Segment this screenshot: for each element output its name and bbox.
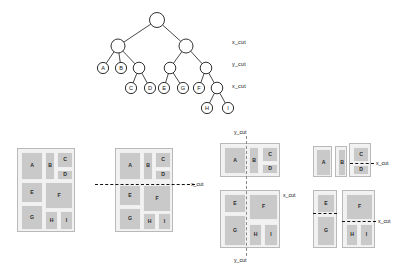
tree-internal-node[interactable] xyxy=(133,62,145,74)
floorplan-split-halves-y-cut-x-cut-label: x_cut xyxy=(283,192,295,198)
floorplan-block-i[interactable]: I xyxy=(360,224,373,246)
floorplan-quadrants-x-cut-group-EG-x-cut-line xyxy=(313,213,337,214)
floorplan-quadrants-x-cut-group-A-board: A xyxy=(313,146,332,177)
floorplan-block-d[interactable]: D xyxy=(57,170,73,180)
block-label: F xyxy=(57,193,60,198)
tree-node-label: C xyxy=(129,85,133,91)
floorplan-block-g[interactable]: G xyxy=(224,215,246,246)
floorplan-block-f[interactable]: F xyxy=(143,185,171,212)
block-label: H xyxy=(148,219,152,224)
floorplan-block-c[interactable]: C xyxy=(155,152,171,168)
floorplan-block-e[interactable]: E xyxy=(119,185,141,206)
tree-edge xyxy=(119,53,120,63)
tree-edge xyxy=(166,74,169,83)
tree-edge xyxy=(173,73,180,83)
tree-node-label: E xyxy=(162,85,166,91)
floorplan-split-halves-y-cut-top-board: ABCD xyxy=(220,143,280,177)
block-label: G xyxy=(30,215,34,220)
tree-internal-node[interactable] xyxy=(150,13,165,28)
tree-leaf-node-f[interactable]: F xyxy=(193,82,204,93)
tree-node-circle xyxy=(211,82,223,94)
floorplan-block-e[interactable]: E xyxy=(21,182,43,203)
floorplan-block-d[interactable]: D xyxy=(155,170,171,180)
floorplan-block-c[interactable]: C xyxy=(57,152,73,168)
tree-node-label: G xyxy=(181,85,185,91)
floorplan-block-a[interactable]: A xyxy=(21,152,43,180)
floorplan-first-x-cut-board: ABCDEFGHI xyxy=(115,148,173,232)
block-label: C xyxy=(359,152,363,157)
tree-edge xyxy=(123,51,135,64)
tree-node-label: H xyxy=(205,105,209,111)
tree-leaf-node-h[interactable]: H xyxy=(201,102,212,113)
floorplan-block-e[interactable]: E xyxy=(224,194,246,213)
floorplan-block-f[interactable]: F xyxy=(249,194,278,220)
tree-level-label-x-cut-1: x_cut xyxy=(232,39,246,45)
floorplan-block-a[interactable]: A xyxy=(224,147,246,174)
block-label: I xyxy=(164,219,165,224)
tree-leaf-node-d[interactable]: D xyxy=(144,82,155,93)
block-label: B xyxy=(340,160,344,165)
floorplan-block-c[interactable]: C xyxy=(353,147,369,162)
block-label: E xyxy=(324,201,327,206)
floorplan-block-c[interactable]: C xyxy=(262,147,278,162)
slicing-tree-svg: ABCDEGFHI xyxy=(0,0,400,128)
tree-node-circle xyxy=(150,13,165,28)
tree-internal-node[interactable] xyxy=(211,82,223,94)
floorplan-block-i[interactable]: I xyxy=(158,213,171,230)
tree-edge xyxy=(210,93,215,103)
tree-leaf-node-a[interactable]: A xyxy=(97,62,108,73)
floorplan-block-a[interactable]: A xyxy=(316,149,331,176)
floorplan-block-g[interactable]: G xyxy=(317,216,335,246)
tree-node-circle xyxy=(133,62,145,74)
floorplan-block-e[interactable]: E xyxy=(317,194,335,213)
tree-internal-node[interactable] xyxy=(111,39,125,53)
floorplan-first-x-cut-cut-0 xyxy=(95,184,195,185)
tree-internal-node[interactable] xyxy=(164,62,176,74)
floorplan-block-h[interactable]: H xyxy=(45,211,58,230)
floorplan-block-g[interactable]: G xyxy=(119,208,141,230)
block-label: H xyxy=(254,232,258,237)
block-label: I xyxy=(366,232,367,237)
block-label: G xyxy=(233,228,237,233)
slicing-tree: ABCDEGFHI x_cut y_cut x_cut xyxy=(0,0,400,128)
floorplan-quadrants-x-cut-group-B-board: B xyxy=(335,146,347,177)
block-label: F xyxy=(262,204,265,209)
floorplan-block-f[interactable]: F xyxy=(346,194,373,220)
floorplan-block-a[interactable]: A xyxy=(119,152,141,180)
tree-edge xyxy=(201,73,204,82)
floorplan-block-b[interactable]: B xyxy=(45,152,55,180)
floorplan-block-b[interactable]: B xyxy=(338,149,346,176)
floorplan-block-d[interactable]: D xyxy=(262,164,278,174)
tree-edge xyxy=(133,73,137,82)
block-label: D xyxy=(63,172,67,177)
tree-leaf-node-e[interactable]: E xyxy=(158,82,169,93)
floorplan-block-h[interactable]: H xyxy=(346,224,358,246)
block-label: G xyxy=(128,216,132,221)
floorplan-block-f[interactable]: F xyxy=(45,182,73,209)
tree-internal-node[interactable] xyxy=(200,62,212,74)
floorplan-block-b[interactable]: B xyxy=(143,152,153,180)
floorplan-block-i[interactable]: I xyxy=(264,224,278,246)
tree-edge xyxy=(142,73,148,83)
block-label: C xyxy=(63,157,67,162)
floorplan-quadrants-x-cut-group-FHI-x-cut-label: x_cut xyxy=(378,218,390,224)
floorplan-block-g[interactable]: G xyxy=(21,205,43,230)
floorplan-block-d[interactable]: D xyxy=(353,165,369,175)
block-label: A xyxy=(322,160,326,165)
floorplan-block-b[interactable]: B xyxy=(249,147,259,174)
tree-internal-node[interactable] xyxy=(179,39,193,53)
block-label: E xyxy=(30,190,33,195)
tree-leaf-node-b[interactable]: B xyxy=(115,62,126,73)
floorplan-block-h[interactable]: H xyxy=(249,224,262,246)
tree-edge xyxy=(106,52,114,64)
figure-root: ABCDEGFHI x_cut y_cut x_cut ABCDEFGHIABC… xyxy=(0,0,400,271)
tree-leaf-node-i[interactable]: I xyxy=(222,102,233,113)
floorplan-block-h[interactable]: H xyxy=(143,213,156,230)
floorplan-split-halves-y-cut-top-y-cut-line xyxy=(246,136,247,184)
tree-edge xyxy=(173,52,181,64)
tree-node-circle xyxy=(111,39,125,53)
block-label: I xyxy=(66,218,67,223)
floorplan-block-i[interactable]: I xyxy=(60,211,73,230)
tree-leaf-node-g[interactable]: G xyxy=(177,82,188,93)
tree-leaf-node-c[interactable]: C xyxy=(125,82,136,93)
